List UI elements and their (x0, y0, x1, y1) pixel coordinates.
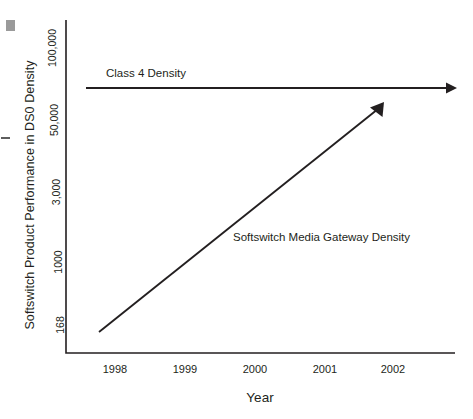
y-tick-label-1000: 1000 (51, 232, 65, 292)
softswitch-density-line (99, 109, 378, 332)
y-tick-label-3000: 3,000 (49, 162, 63, 222)
chart-page: Softswitch Product Performance in DS0 De… (0, 0, 473, 419)
x-tick-label-1998: 1998 (85, 363, 145, 375)
class4-density-arrowhead (446, 83, 457, 94)
x-tick-label-2002: 2002 (363, 363, 423, 375)
y-tick-label-100000: 100,000 (45, 18, 59, 78)
x-tick-label-2001: 2001 (295, 363, 355, 375)
x-tick-label-1999: 1999 (155, 363, 215, 375)
x-axis-title: Year (200, 390, 320, 405)
chart-plot-area (0, 0, 473, 419)
softswitch-density-label: Softswitch Media Gateway Density (233, 231, 410, 243)
x-tick-label-2000: 2000 (225, 363, 285, 375)
class4-density-label: Class 4 Density (106, 67, 186, 79)
y-tick-label-168: 168 (53, 295, 67, 355)
y-tick-label-50000: 50,000 (47, 90, 61, 150)
